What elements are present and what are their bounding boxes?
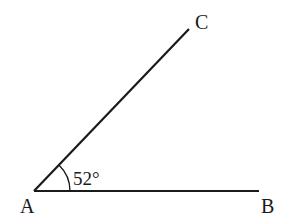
vertex-label-b: B <box>261 196 274 216</box>
vertex-label-a: A <box>20 196 34 216</box>
vertex-label-c: C <box>195 12 208 32</box>
angle-diagram: A B C 52° <box>0 0 295 224</box>
angle-arc <box>59 165 70 191</box>
angle-figure <box>0 0 295 224</box>
ray-ac <box>34 29 189 191</box>
angle-measure-label: 52° <box>73 169 100 188</box>
